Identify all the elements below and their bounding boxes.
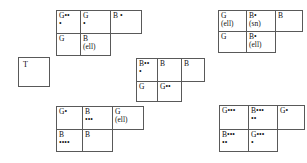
table-cell: B••••• xyxy=(220,130,249,152)
cell-content: G• xyxy=(59,108,82,116)
cell-content: B xyxy=(85,131,112,139)
t-box: T xyxy=(18,57,50,87)
table-cell: G• xyxy=(81,11,111,34)
cell-line-secondary: • xyxy=(59,20,80,28)
cell-content: B••• xyxy=(139,60,157,77)
cell-content: G xyxy=(139,83,157,91)
cell-line-primary: B • xyxy=(113,12,141,20)
cell-line-primary: G xyxy=(139,83,157,91)
table-cell: G• xyxy=(57,107,83,130)
table-cell-empty xyxy=(113,130,144,152)
cell-line-secondary: (ell) xyxy=(115,116,143,124)
table-cell: B(ell) xyxy=(81,34,111,56)
table-cell: B xyxy=(158,59,182,82)
table-cell: G xyxy=(219,32,247,53)
table-cell: B xyxy=(276,11,303,32)
cell-line-secondary: (sn) xyxy=(249,20,275,28)
table-cell: B••• xyxy=(137,59,158,82)
table-cell: G•••• xyxy=(249,130,278,152)
cell-line-primary: G••• xyxy=(251,131,277,139)
cell-line-secondary: • xyxy=(139,68,157,76)
table-cell: B••• xyxy=(83,107,113,130)
t-box-label: T xyxy=(19,58,49,69)
table-cell: G••• xyxy=(220,106,249,130)
cell-line-secondary: •• xyxy=(251,115,277,123)
cell-content: G xyxy=(221,33,246,41)
cell-line-secondary: (ell) xyxy=(83,43,110,51)
cell-line-primary: G• xyxy=(280,107,304,115)
table-cell: G xyxy=(57,34,81,56)
cell-line-primary: B xyxy=(85,131,112,139)
cell-content: G•••• xyxy=(251,131,277,148)
table-row: GB•(ell) xyxy=(219,32,303,53)
cell-content: B • xyxy=(113,12,141,20)
table-cell: B • xyxy=(111,11,142,34)
cell-content: B•(sn) xyxy=(249,12,275,29)
table-row: G•••B•••••G• xyxy=(220,106,305,130)
table-cell: B•••• xyxy=(57,130,83,152)
table-top-right: G(ell)B•(sn)BGB•(ell) xyxy=(218,10,303,53)
cell-line-primary: G xyxy=(83,12,110,20)
table-cell: G• xyxy=(278,106,305,130)
cell-line-primary: B xyxy=(278,12,302,20)
cell-line-secondary: (ell) xyxy=(249,41,275,49)
table-cell-empty xyxy=(278,130,305,152)
cell-line-primary: G xyxy=(59,35,80,43)
table-cell-empty xyxy=(182,82,205,102)
cell-line-secondary: • xyxy=(83,20,110,28)
cell-content: G••• xyxy=(222,107,248,115)
cell-line-primary: G• xyxy=(59,108,82,116)
table-cell: B•(ell) xyxy=(247,32,276,53)
table-cell: B xyxy=(83,130,113,152)
table-row: B•••••G•••• xyxy=(220,130,305,152)
table-cell: B xyxy=(182,59,205,82)
diagram-canvas: T G•••G•B •GB(ell)G(ell)B•(sn)BGB•(ell)B… xyxy=(0,0,307,163)
table-row: G(ell)B•(sn)B xyxy=(219,11,303,32)
cell-line-primary: B xyxy=(184,60,204,68)
table-cell: G•• xyxy=(158,82,182,102)
table-cell: G(ell) xyxy=(113,107,144,130)
table-middle: B•••BBGG•• xyxy=(136,58,205,102)
table-cell-empty xyxy=(276,32,303,53)
cell-content: G(ell) xyxy=(115,108,143,125)
cell-content: G• xyxy=(83,12,110,29)
table-row: B••••B xyxy=(57,130,144,152)
table-row: GG•• xyxy=(137,82,205,102)
cell-line-secondary: ••• xyxy=(85,116,112,124)
cell-content: G••• xyxy=(59,12,80,29)
cell-line-primary: G•• xyxy=(160,83,181,91)
cell-line-primary: G•• xyxy=(59,12,80,20)
table-row: B•••BB xyxy=(137,59,205,82)
cell-line-primary: G xyxy=(221,33,246,41)
cell-content: B xyxy=(184,60,204,68)
cell-line-primary: G••• xyxy=(222,107,248,115)
table-cell-empty xyxy=(111,34,142,56)
table-row: G•••G•B • xyxy=(57,11,142,34)
cell-content: G(ell) xyxy=(221,12,246,29)
table-top-left: G•••G•B •GB(ell) xyxy=(56,10,142,56)
cell-content: G xyxy=(59,35,80,43)
cell-content: B(ell) xyxy=(83,35,110,52)
table-cell: G xyxy=(137,82,158,102)
table-row: G•B•••G(ell) xyxy=(57,107,144,130)
cell-line-primary: B xyxy=(160,60,181,68)
cell-content: G• xyxy=(280,107,304,115)
table-bottom-left: G•B•••G(ell)B••••B xyxy=(56,106,144,152)
table-cell: G••• xyxy=(57,11,81,34)
cell-line-secondary: •• xyxy=(222,139,248,147)
cell-content: B••••• xyxy=(222,131,248,148)
cell-content: B••••• xyxy=(251,107,277,124)
cell-line-secondary: (ell) xyxy=(221,20,246,28)
cell-line-secondary: •••• xyxy=(59,139,82,147)
cell-content: B••• xyxy=(85,108,112,125)
table-cell: B••••• xyxy=(249,106,278,130)
cell-content: B•(ell) xyxy=(249,33,275,50)
cell-content: B•••• xyxy=(59,131,82,148)
table-cell: B•(sn) xyxy=(247,11,276,32)
cell-line-secondary: • xyxy=(251,139,277,147)
cell-content: B xyxy=(278,12,302,20)
table-bottom-right: G•••B•••••G•B•••••G•••• xyxy=(219,105,305,152)
cell-content: B xyxy=(160,60,181,68)
table-cell: G(ell) xyxy=(219,11,247,32)
table-row: GB(ell) xyxy=(57,34,142,56)
